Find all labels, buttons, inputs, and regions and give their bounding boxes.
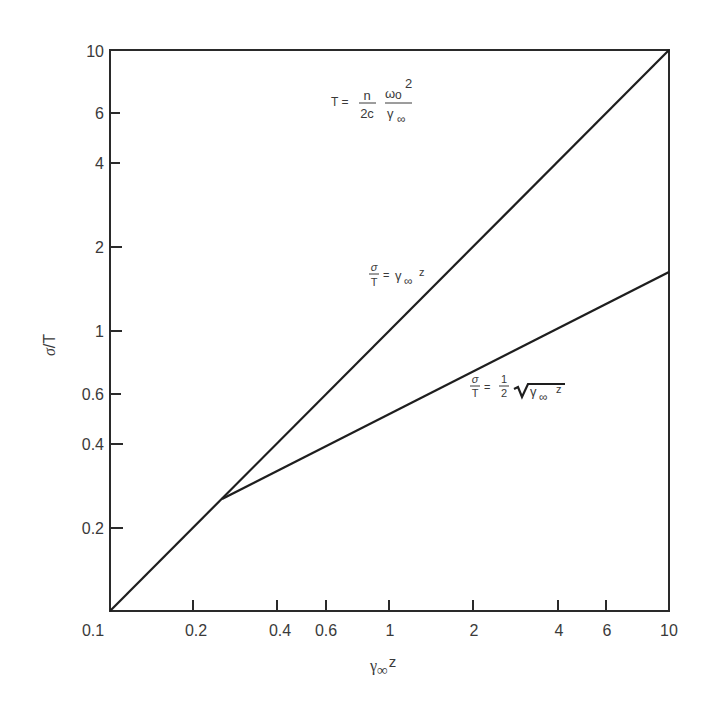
- eq-linear-z: z: [419, 266, 425, 278]
- y-tick-label: 0.6: [82, 386, 104, 403]
- eq-linear-eq: =: [383, 269, 389, 281]
- svg-text:γ∞z: γ∞z: [369, 653, 396, 678]
- eq-linear-T: T: [371, 276, 378, 288]
- eq-sqrt-eq: =: [484, 381, 490, 393]
- series-linear-line: [110, 50, 669, 611]
- y-tick-labels: 10 6 4 2 1 0.6 0.4 0.2: [82, 43, 104, 537]
- x-axis: [193, 600, 606, 611]
- eq-T-gamma: γ: [387, 106, 394, 121]
- y-tick-label: 0.2: [82, 520, 104, 537]
- eq-T-omega-sup: 2: [405, 76, 412, 91]
- x-tick-label: 0.6: [315, 622, 337, 639]
- eq-linear-label: σ T = γ ∞ z: [369, 261, 425, 288]
- x-axis-title-inf: ∞: [377, 662, 388, 678]
- x-tick-label: 2: [470, 622, 479, 639]
- eq-T-omega-sub: o: [395, 88, 402, 102]
- eq-sqrt-T: T: [472, 387, 479, 399]
- eq-sqrt-one: 1: [501, 373, 507, 385]
- eq-T-omega: ω: [385, 86, 395, 101]
- eq-sqrt-sigma: σ: [472, 373, 479, 385]
- x-tick-label: 4: [555, 622, 564, 639]
- x-axis-title-z: z: [389, 653, 397, 670]
- x-tick-label: 10: [660, 622, 678, 639]
- eq-sqrt-gamma: γ: [530, 384, 537, 399]
- eq-sqrt-inf: ∞: [539, 390, 548, 404]
- y-axis-title: σ/T: [41, 334, 58, 356]
- eq-linear-inf: ∞: [404, 274, 413, 288]
- y-tick-label: 10: [86, 43, 104, 60]
- x-axis-title-gamma: γ: [369, 657, 377, 675]
- x-tick-label: 1: [386, 622, 395, 639]
- series-sqrt-line: [222, 272, 669, 499]
- x-tick-label: 6: [603, 622, 612, 639]
- eq-T-n: n: [363, 88, 370, 103]
- eq-linear-sigma: σ: [371, 261, 378, 273]
- eq-T-inf: ∞: [397, 112, 406, 126]
- x-tick-label: 0.4: [269, 622, 291, 639]
- y-axis: [110, 113, 123, 528]
- y-tick-label: 6: [95, 105, 104, 122]
- eq-T-definition: T = n 2c ω o 2 γ ∞: [331, 76, 412, 126]
- eq-sqrt-two: 2: [501, 387, 507, 399]
- y-tick-label: 1: [95, 323, 104, 340]
- y-tick-label: 0.4: [82, 436, 104, 453]
- log-log-chart: 10 6 4 2 1 0.6 0.4 0.2 0.1 0.2 0.4 0.6 1…: [0, 0, 706, 702]
- y-tick-label: 4: [95, 155, 104, 172]
- x-tick-label: 0.2: [185, 622, 207, 639]
- eq-T-2c: 2c: [360, 106, 374, 121]
- svg-text:σ/T: σ/T: [41, 334, 58, 356]
- y-axis-title-T: /T: [41, 334, 58, 348]
- eq-sqrt-z: z: [556, 383, 562, 395]
- eq-T-lhs: T =: [331, 95, 348, 109]
- eq-linear-gamma: γ: [395, 268, 402, 283]
- eq-sqrt-label: σ T = 1 2 γ ∞ z: [470, 373, 565, 404]
- x-tick-label: 0.1: [82, 622, 104, 639]
- x-tick-labels: 0.1 0.2 0.4 0.6 1 2 4 6 10: [82, 622, 678, 639]
- x-axis-title: γ∞z: [369, 653, 396, 678]
- y-tick-label: 2: [95, 239, 104, 256]
